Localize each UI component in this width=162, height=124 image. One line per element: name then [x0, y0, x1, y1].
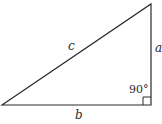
horizontal-leg-label: b [75, 108, 83, 122]
right-angle-marker [143, 97, 151, 105]
right-angle-label: 90° [129, 83, 149, 96]
right-triangle-diagram: c a b 90° [0, 0, 162, 124]
hypotenuse-label: c [68, 39, 75, 53]
vertical-leg-label: a [155, 41, 162, 55]
